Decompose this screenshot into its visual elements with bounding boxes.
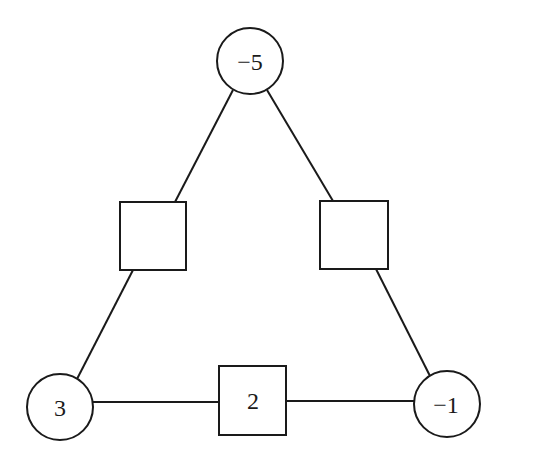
edge-top-to-right-square — [267, 90, 333, 201]
circle-node-top: −5 — [217, 28, 283, 94]
edge-right-square-to-bottom-right — [376, 269, 430, 376]
circle-node-bottom-left: 3 — [27, 374, 93, 440]
circle-node-bottom-right: −1 — [414, 371, 480, 437]
square-shape[interactable] — [320, 201, 388, 269]
square-node-left[interactable] — [120, 202, 186, 270]
edge-top-to-left-square — [175, 90, 233, 202]
edge-left-square-to-bottom-left — [77, 270, 133, 379]
square-label-bottom: 2 — [247, 388, 259, 414]
square-node-bottom: 2 — [219, 366, 286, 435]
circle-label-bottom-left: 3 — [54, 395, 66, 421]
square-node-right[interactable] — [320, 201, 388, 269]
circle-label-bottom-right: −1 — [433, 392, 459, 418]
square-shape[interactable] — [120, 202, 186, 270]
triangle-puzzle-diagram: −5 3 −1 2 — [0, 0, 558, 461]
circle-label-top: −5 — [237, 49, 263, 75]
